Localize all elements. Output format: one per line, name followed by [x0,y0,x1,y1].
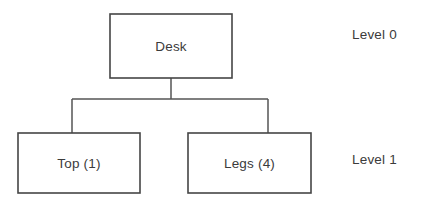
level-1-label: Level 1 [352,152,397,167]
node-legs[interactable]: Legs (4) [188,133,311,193]
connector-group [72,78,268,133]
node-top-label: Top (1) [57,156,100,171]
node-top[interactable]: Top (1) [18,133,140,193]
level-0-label: Level 0 [352,27,397,42]
diagram-canvas: Desk Top (1) Legs (4) Level 0 Level 1 [0,0,428,206]
node-legs-label: Legs (4) [224,156,275,171]
node-desk[interactable]: Desk [110,14,232,78]
product-structure-tree: Desk Top (1) Legs (4) Level 0 Level 1 [0,0,428,206]
node-desk-label: Desk [155,39,187,54]
